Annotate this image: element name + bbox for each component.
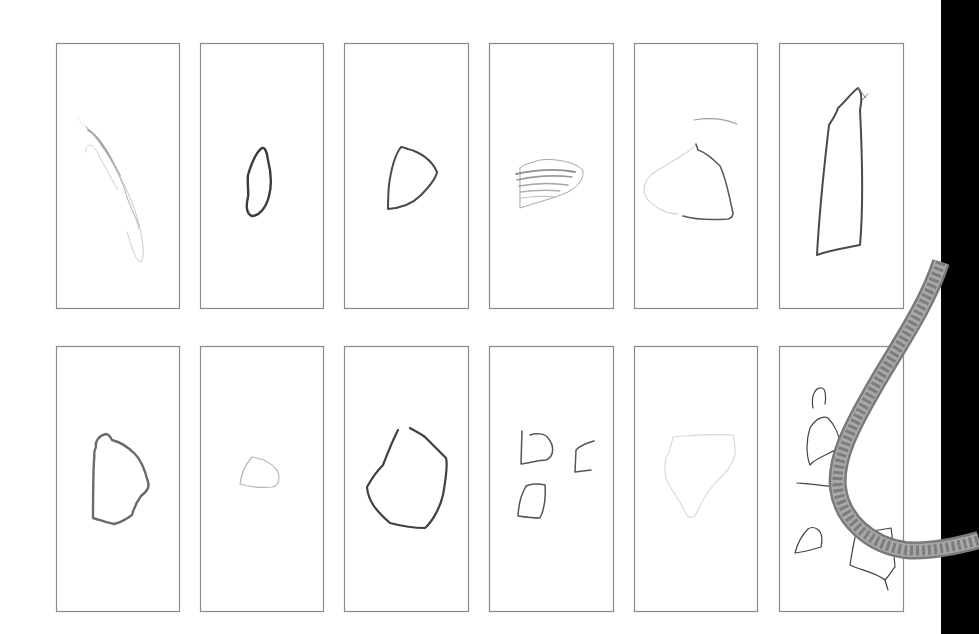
panel-frame	[780, 44, 904, 309]
sheet-canvas	[0, 0, 979, 634]
panel-frame	[57, 347, 180, 612]
panel-frame	[201, 347, 324, 612]
drawing-panel-r1c3	[345, 44, 469, 309]
drawing-panel-r1c2	[201, 44, 324, 309]
drawing-panel-r2c2	[201, 347, 324, 612]
drawing-panel-r1c1	[57, 44, 180, 309]
panel-frame	[635, 44, 758, 309]
panel-frame	[201, 44, 324, 309]
drawing-panel-r1c5	[635, 44, 758, 309]
drawing-panel-r2c6	[780, 347, 904, 612]
panel-frame	[635, 347, 758, 612]
panel-frame	[57, 44, 180, 309]
drawing-panel-r2c3	[345, 347, 469, 612]
panel-frame	[345, 44, 469, 309]
drawing-panel-r1c4	[490, 44, 614, 309]
panel-frame	[345, 347, 469, 612]
panel-frame	[490, 347, 614, 612]
drawing-panel-r2c4	[490, 347, 614, 612]
drawing-panel-r2c5	[635, 347, 758, 612]
panel-frame	[780, 347, 904, 612]
panels-layer	[57, 44, 904, 612]
black-margin-band	[941, 0, 979, 634]
drawing-panel-r2c1	[57, 347, 180, 612]
drawing-sheet	[0, 0, 979, 634]
drawing-panel-r1c6	[780, 44, 904, 309]
